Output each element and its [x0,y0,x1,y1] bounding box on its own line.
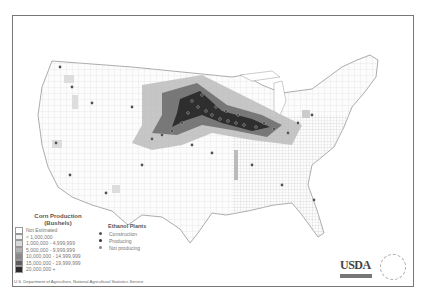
usda-logo-bar [340,274,372,278]
plants-legend-item: Not producing [98,244,178,251]
plants-legend-label: Construction [109,231,137,237]
nass-seal-icon [380,254,406,280]
legend-swatch [15,266,23,273]
legend-title: Corn Production [15,213,101,220]
legend-label: 1,000,000 - 4,999,999 [26,240,75,246]
source-footer: U.S. Department of Agriculture, National… [14,279,143,284]
not-producing-dot-icon [99,246,102,249]
usda-logo: USDA [340,258,372,278]
legend-class: 20,000,000 + [15,266,101,273]
construction-dot-icon [99,232,102,235]
legend-label: 20,000,000 + [26,266,55,272]
legend-label: Not Estimated [26,227,57,233]
legend-label: 15,000,000 - 19,999,999 [26,260,81,266]
plants-legend-label: Not producing [109,245,140,251]
legend-subtitle: (Bushels) [15,220,101,227]
legend-label: 10,000,000 - 14,999,999 [26,253,81,259]
plants-legend-label: Producing [109,238,132,244]
plants-legend-item: Producing [98,237,178,244]
producing-dot-icon [99,239,102,242]
plants-legend-item: Construction [98,230,178,237]
ethanol-plants-legend: Ethanol Plants Construction Producing No… [98,223,178,251]
legend-label: < 1,000,000 [26,234,53,240]
corn-production-legend: Corn Production (Bushels) Not Estimated … [15,213,101,273]
plants-legend-title: Ethanol Plants [108,223,178,230]
legend-label: 5,000,000 - 9,999,999 [26,247,75,253]
usda-logo-text: USDA [340,258,372,273]
